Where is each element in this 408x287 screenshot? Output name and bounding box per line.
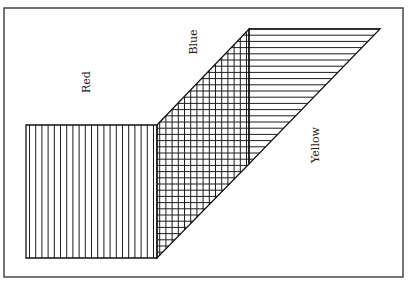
label-blue: Blue: [187, 29, 200, 54]
diagram-canvas: Red Blue Yellow: [0, 0, 408, 287]
label-yellow: Yellow: [309, 126, 322, 163]
label-red: Red: [80, 71, 93, 93]
